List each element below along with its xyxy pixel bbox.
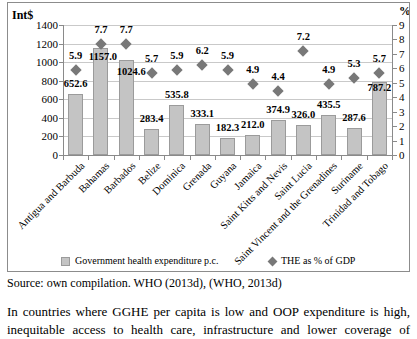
left-tick-mark [59,118,63,119]
bar-value-label: 787.2 [344,81,410,94]
diamond-marker [298,45,309,56]
y2-axis-tick-label: 2 [399,119,410,133]
legend-label-diamond-series: THE as % of GDP [281,255,355,267]
left-tick-mark [59,62,63,63]
point-value-label: 7.7 [91,23,161,36]
diamond-marker [171,64,182,75]
legend-item-bar-series: Government health expenditure p.c. [61,255,219,267]
diamond-marker [272,86,283,97]
left-axis-line [63,25,64,156]
x-tick-mark [291,156,292,160]
y2-axis-tick-label: 0 [399,148,410,162]
paragraph-line-1: In countries where GGHE per capita is lo… [7,303,410,321]
left-tick-mark [59,44,63,45]
bar [220,138,235,155]
bar [93,48,108,155]
bar [144,129,159,155]
point-value-label: 5.9 [193,49,263,62]
bar [347,128,362,155]
bar [296,125,311,155]
x-tick-mark [88,156,89,160]
right-tick-mark [393,39,397,40]
y-axis-tick-label: 400 [24,111,58,125]
x-tick-mark [215,156,216,160]
x-tick-mark [114,156,115,160]
x-tick-mark [139,156,140,160]
paragraph: In countries where GGHE per capita is lo… [7,303,410,339]
right-tick-mark [393,155,397,156]
x-axis-line [63,155,393,156]
gridline [63,81,392,82]
diamond-marker [121,38,132,49]
document-page: { "page": { "source_line": "Source: own … [0,0,417,339]
x-tick-mark [240,156,241,160]
bar [68,94,83,155]
figure-source-caption: Source: own compilation. WHO (2013d), (W… [7,276,411,291]
x-tick-mark [367,156,368,160]
y-axis-tick-label: 0 [24,148,58,162]
left-tick-mark [59,99,63,100]
bar-value-label: 535.8 [142,88,212,101]
y2-axis-tick-label: 9 [399,18,410,32]
y-axis-tick-label: 600 [24,92,58,106]
point-value-label: 5.7 [344,52,410,65]
right-tick-mark [393,25,397,26]
y-axis-tick-label: 1400 [24,18,58,32]
left-tick-mark [59,25,63,26]
x-tick-mark [392,156,393,160]
right-tick-mark [393,97,397,98]
y2-axis-tick-label: 3 [399,105,410,119]
right-axis-title: % [399,5,410,18]
x-tick-mark [316,156,317,160]
right-tick-mark [393,141,397,142]
x-axis-label-text: Antigua and Barbuda [15,160,87,232]
right-tick-mark [393,68,397,69]
y2-axis-tick-label: 1 [399,134,410,148]
bar [245,135,260,155]
diamond-series-swatch-icon [268,256,278,266]
diamond-marker [70,64,81,75]
right-tick-mark [393,112,397,113]
bar [271,120,286,155]
right-tick-mark [393,126,397,127]
y-axis-tick-label: 200 [24,129,58,143]
bar-value-label: 435.5 [294,98,364,111]
left-tick-mark [59,136,63,137]
y2-axis-tick-label: 8 [399,32,410,46]
bar-series-swatch-icon [61,257,70,266]
point-value-label: 7.2 [268,30,338,43]
x-tick-mark [164,156,165,160]
chart-figure: Int$ % 020040060080010001200140001234567… [7,2,410,272]
legend-label-bar-series: Government health expenditure p.c. [75,255,219,267]
x-tick-mark [190,156,191,160]
x-tick-mark [341,156,342,160]
x-tick-mark [63,156,64,160]
x-tick-mark [265,156,266,160]
legend-item-diamond-series: THE as % of GDP [269,255,355,267]
paragraph-line-2: inequitable access to health care, infra… [7,321,410,339]
